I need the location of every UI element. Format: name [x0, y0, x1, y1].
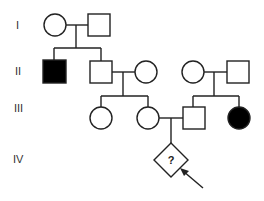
individual-III-2-female	[137, 107, 159, 129]
individual-II-3-female	[135, 61, 157, 83]
individual-II-4-female	[182, 61, 204, 83]
individual-II-2-male	[90, 61, 112, 83]
generation-label-I: I	[16, 19, 19, 31]
individual-III-4-female-affected	[228, 107, 250, 129]
pedigree-chart: I II III IV ?	[0, 0, 264, 201]
generation-label-II: II	[15, 65, 21, 77]
individual-I-1-female	[44, 14, 66, 36]
individual-II-5-male	[227, 61, 249, 83]
unknown-status-label: ?	[168, 154, 175, 166]
individual-I-2-male	[88, 14, 110, 36]
generation-label-III: III	[14, 102, 23, 114]
individual-III-1-female	[90, 107, 112, 129]
generation-label-IV: IV	[13, 153, 24, 165]
individual-III-3-male	[183, 107, 205, 129]
individual-II-1-male-affected	[43, 60, 66, 83]
